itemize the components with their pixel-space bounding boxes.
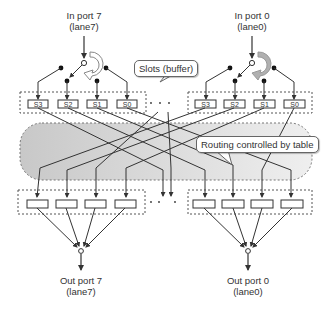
svg-text:S0: S0 (123, 101, 132, 108)
in-port-0-label: In port 0(lane0) (222, 10, 282, 32)
slots-lane7 (28, 100, 137, 108)
output-slots-lane7 (27, 200, 136, 208)
svg-text:S3: S3 (201, 101, 210, 108)
rotator-icon-lane7 (84, 52, 103, 80)
svg-text:S3: S3 (34, 101, 43, 108)
out-port-7-label: Out port 7(lane7) (50, 275, 112, 297)
routing-callout: Routing controlled by table (196, 136, 319, 153)
svg-text:S2: S2 (230, 101, 239, 108)
in-port-7-label: In port 7(lane7) (54, 10, 114, 32)
slots-lane0 (195, 100, 305, 108)
input-node-lane0 (249, 60, 254, 65)
svg-text:S0: S0 (290, 101, 299, 108)
slots-callout: Slots (buffer) (134, 60, 198, 77)
svg-text:S2: S2 (64, 101, 73, 108)
switch-diagram: S3 S2 S1 S0 S3 S2 S1 S0 (0, 0, 329, 316)
out-port-0-label: Out port 0(lane0) (217, 275, 279, 297)
output-node-lane0 (246, 249, 251, 254)
svg-text:S1: S1 (93, 101, 102, 108)
output-slots-lane0 (193, 200, 303, 208)
rotator-icon-lane0 (252, 52, 271, 80)
svg-text:S1: S1 (260, 101, 269, 108)
input-node-lane7 (81, 60, 86, 65)
output-node-lane7 (79, 249, 84, 254)
